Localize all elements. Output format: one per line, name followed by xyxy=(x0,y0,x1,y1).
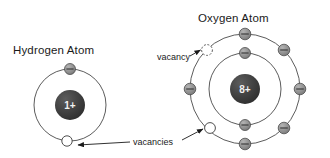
oxygen-inner-electron-2 xyxy=(240,120,251,131)
diagram-canvas: Hydrogen Atom 1+ Oxygen Atom xyxy=(0,0,330,158)
hydrogen-nucleus-label: 1+ xyxy=(64,100,76,111)
oxygen-outer-electron-4 xyxy=(278,122,290,134)
atom-diagram: Hydrogen Atom 1+ Oxygen Atom xyxy=(0,0,330,158)
oxygen-outer-electron-1 xyxy=(239,28,251,40)
vacancies-leader-to-oxygen xyxy=(182,129,203,140)
vacancy-callout: vacancy xyxy=(157,50,201,62)
hydrogen-atom-group: Hydrogen Atom 1+ xyxy=(13,44,106,146)
hydrogen-nucleus: 1+ xyxy=(55,90,85,120)
oxygen-outer-electron-2 xyxy=(278,44,290,56)
oxygen-nucleus-label: 8+ xyxy=(239,84,251,95)
vacancy-callout-leader xyxy=(190,50,201,56)
vacancies-callout: vacancies xyxy=(78,129,203,147)
oxygen-nucleus: 8+ xyxy=(230,74,260,104)
hydrogen-atom-title: Hydrogen Atom xyxy=(13,44,94,56)
oxygen-vacancy-bottom xyxy=(205,123,216,134)
oxygen-outer-electron-6 xyxy=(184,83,196,95)
oxygen-inner-electron-1 xyxy=(240,48,251,59)
oxygen-atom-title: Oxygen Atom xyxy=(198,12,269,24)
hydrogen-electron-1 xyxy=(65,64,76,75)
vacancies-leader-to-hydrogen xyxy=(78,142,130,145)
hydrogen-vacancy-1 xyxy=(62,136,72,146)
vacancy-callout-label: vacancy xyxy=(157,52,191,62)
oxygen-vacancy-top xyxy=(202,45,213,56)
vacancies-callout-label: vacancies xyxy=(133,137,174,147)
oxygen-outer-electron-5 xyxy=(239,138,251,150)
oxygen-outer-electron-3 xyxy=(294,83,306,95)
